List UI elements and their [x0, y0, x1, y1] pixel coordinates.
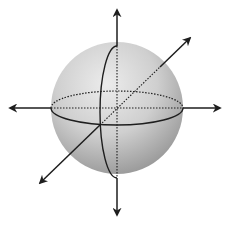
sphere-axes-diagram — [0, 0, 228, 227]
depth-axis-back-arrow — [160, 38, 190, 67]
